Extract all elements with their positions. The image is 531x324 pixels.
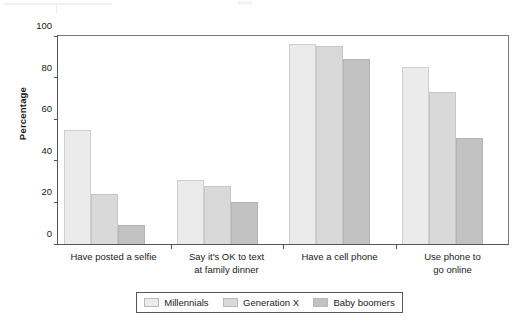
legend-item[interactable]: Baby boomers (313, 297, 394, 308)
legend-item[interactable]: Millennials (144, 297, 208, 308)
bar[interactable] (343, 59, 370, 244)
x-tick-mark (171, 244, 172, 249)
x-axis-label: Say it's OK to textat family dinner (170, 251, 283, 287)
plot-area: 020406080100 (57, 35, 509, 245)
legend-swatch (223, 298, 238, 307)
bar[interactable] (64, 130, 91, 244)
legend-label: Millennials (164, 297, 208, 308)
y-tick-label: 60 (41, 103, 52, 114)
y-tick-label: 100 (36, 20, 52, 31)
bar-groups (58, 36, 508, 244)
bar[interactable] (456, 138, 483, 244)
y-tick-label: 0 (47, 228, 52, 239)
bar[interactable] (204, 186, 231, 244)
bar[interactable] (429, 92, 456, 244)
bar-group (283, 36, 396, 244)
x-axis-label: Have posted a selfie (57, 251, 170, 287)
y-tick-label: 40 (41, 144, 52, 155)
legend-item[interactable]: Generation X (223, 297, 299, 308)
legend-label: Baby boomers (333, 297, 394, 308)
bar[interactable] (91, 194, 118, 244)
y-axis-title: Percentage (17, 64, 28, 164)
bar[interactable] (289, 44, 316, 244)
bar-group (58, 36, 171, 244)
legend-label: Generation X (243, 297, 299, 308)
legend-swatch (313, 298, 328, 307)
bar-group (396, 36, 509, 244)
x-tick-mark (396, 244, 397, 249)
y-tick-label: 20 (41, 186, 52, 197)
y-tick-label: 80 (41, 61, 52, 72)
bar[interactable] (316, 46, 343, 244)
bar-chart: Percentage 020406080100 Have posted a se… (0, 0, 531, 324)
bar-group (171, 36, 284, 244)
legend-swatch (144, 298, 159, 307)
bar[interactable] (118, 225, 145, 244)
legend: MillennialsGeneration XBaby boomers (136, 292, 403, 313)
bar[interactable] (402, 67, 429, 244)
x-axis-label: Use phone togo online (396, 251, 509, 287)
x-axis-label: Have a cell phone (283, 251, 396, 287)
x-axis-labels: Have posted a selfieSay it's OK to texta… (57, 251, 509, 287)
x-tick-mark (283, 244, 284, 249)
bar[interactable] (177, 180, 204, 244)
bar[interactable] (231, 202, 258, 244)
